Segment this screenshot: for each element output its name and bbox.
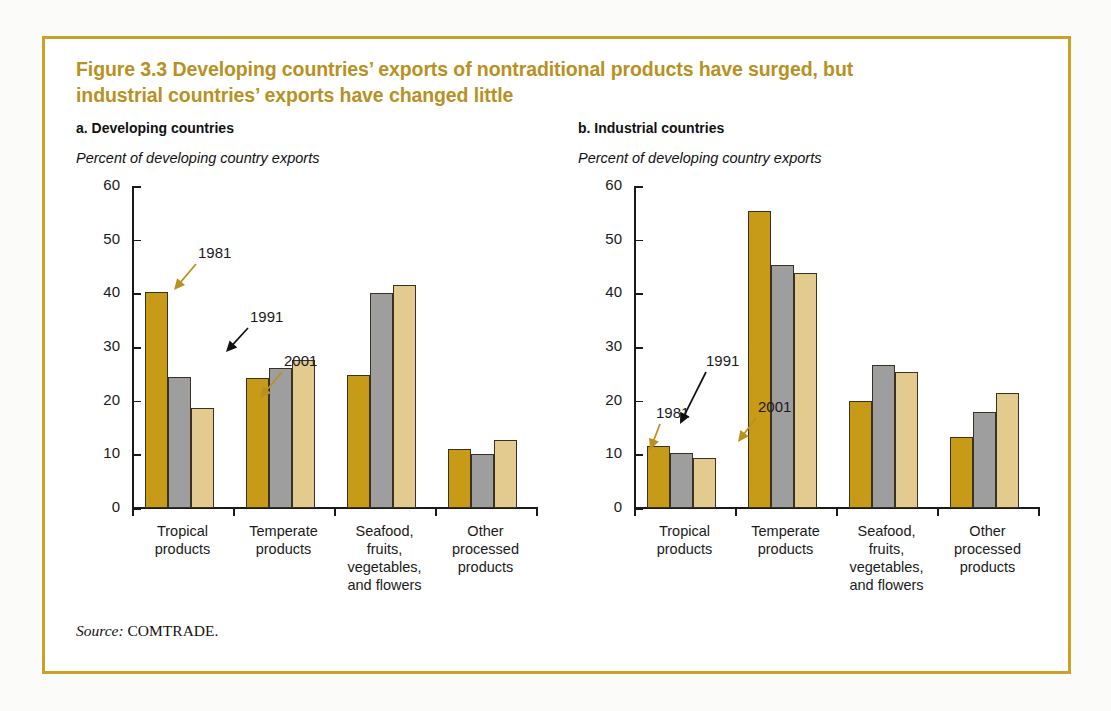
figure-title-line-1: Figure 3.3 Developing countries’ exports… — [76, 56, 1026, 82]
panel-b-plot: 0102030405060TropicalproductsTemperatepr… — [578, 178, 1048, 578]
source-note: Source: COMTRADE. — [76, 622, 218, 640]
x-axis-tick — [536, 507, 538, 516]
source-label: Source: — [76, 622, 124, 639]
x-axis-category-label: Temperateproducts — [233, 522, 334, 558]
panel-a-axis-caption: Percent of developing country exports — [76, 150, 546, 166]
x-axis-category-label: Seafood,fruits,vegetables,and flowers — [334, 522, 435, 594]
figure-title: Figure 3.3 Developing countries’ exports… — [76, 56, 1026, 108]
panel-industrial-countries: b. Industrial countries Percent of devel… — [578, 120, 1048, 578]
x-axis-tick — [1038, 507, 1040, 516]
x-axis-category-label: Tropicalproducts — [132, 522, 233, 558]
panel-developing-countries: a. Developing countries Percent of devel… — [76, 120, 546, 578]
panel-a-plot: 0102030405060TropicalproductsTemperatepr… — [76, 178, 546, 578]
x-axis-category-label: Tropicalproducts — [634, 522, 735, 558]
panel-b-heading: b. Industrial countries — [578, 120, 1048, 136]
annotation-arrow-icon — [76, 178, 536, 518]
panel-a-heading: a. Developing countries — [76, 120, 546, 136]
annotation-arrow-icon — [578, 178, 1038, 518]
x-axis-category-label: Temperateproducts — [735, 522, 836, 558]
x-axis-category-label: Otherprocessedproducts — [937, 522, 1038, 576]
figure-title-line-2: industrial countries’ exports have chang… — [76, 82, 1026, 108]
x-axis-category-label: Seafood,fruits,vegetables,and flowers — [836, 522, 937, 594]
figure-page: Figure 3.3 Developing countries’ exports… — [0, 0, 1111, 711]
x-axis-category-label: Otherprocessedproducts — [435, 522, 536, 576]
source-text: COMTRADE. — [128, 622, 219, 639]
panel-b-axis-caption: Percent of developing country exports — [578, 150, 1048, 166]
